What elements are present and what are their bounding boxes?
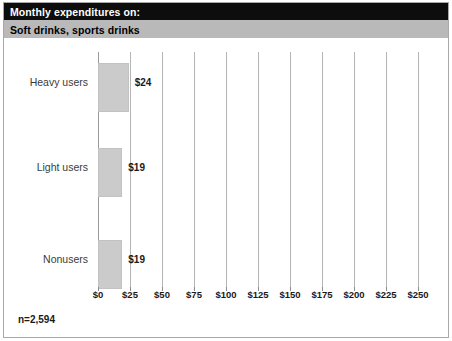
gridline-150 [290,52,291,287]
gridline-125 [258,52,259,287]
gridline-50 [162,52,163,287]
bar-value-label: $19 [128,254,145,265]
category-label: Nonusers [10,253,88,265]
bar-value-label: $19 [128,162,145,173]
bar-value-label: $24 [135,77,152,88]
bar [98,148,122,197]
category-label: Light users [10,161,88,173]
gridline-250 [418,52,419,287]
gridline-175 [322,52,323,287]
category-label: Heavy users [10,76,88,88]
sample-size-note: n=2,594 [18,314,55,325]
gridline-225 [386,52,387,287]
gridline-200 [354,52,355,287]
bar [98,240,122,289]
bar [98,63,129,112]
gridline-100 [226,52,227,287]
plot-area: $24$19$19 Heavy usersLight usersNonusers… [0,0,452,341]
chart-page: Monthly expenditures on: Soft drinks, sp… [0,0,452,341]
gridline-75 [194,52,195,287]
x-tick-label: $250 [398,289,438,300]
